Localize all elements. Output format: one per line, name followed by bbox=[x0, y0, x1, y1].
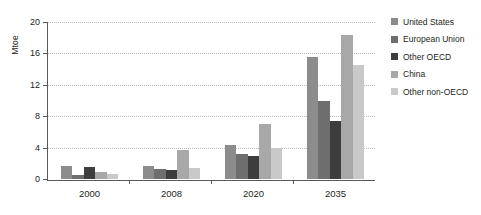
y-axis-line bbox=[47, 22, 48, 180]
plot-area: 048121620 2000200820202035 bbox=[47, 22, 375, 180]
bar[interactable] bbox=[248, 156, 259, 179]
y-axis-tick-mark bbox=[43, 85, 47, 86]
x-axis-tick-mark bbox=[129, 180, 130, 184]
bar[interactable] bbox=[177, 150, 188, 179]
bar[interactable] bbox=[271, 148, 282, 179]
y-axis-title: Mtoe bbox=[10, 23, 20, 67]
bar[interactable] bbox=[95, 172, 106, 179]
y-axis-tick-label: 12 bbox=[30, 80, 40, 90]
bar[interactable] bbox=[330, 121, 341, 179]
y-axis-tick-label: 20 bbox=[30, 17, 40, 27]
bar[interactable] bbox=[189, 168, 200, 179]
x-axis-tick-label: 2020 bbox=[243, 188, 264, 199]
legend-item[interactable]: Other non-OECD bbox=[391, 83, 481, 101]
legend-swatch-icon bbox=[391, 88, 398, 95]
y-axis-tick-mark bbox=[43, 116, 47, 117]
bar[interactable] bbox=[318, 101, 329, 179]
legend-label: European Union bbox=[403, 35, 464, 44]
legend-item[interactable]: China bbox=[391, 66, 481, 84]
y-axis-tick-label: 0 bbox=[35, 174, 40, 184]
legend-swatch-icon bbox=[391, 53, 398, 60]
y-axis-tick-label: 8 bbox=[35, 111, 40, 121]
bar[interactable] bbox=[107, 174, 118, 179]
legend-swatch-icon bbox=[391, 18, 398, 25]
legend-label: Other non-OECD bbox=[403, 88, 468, 97]
bar-group bbox=[143, 22, 200, 179]
legend-item[interactable]: United States bbox=[391, 13, 481, 31]
bar-group bbox=[307, 22, 364, 179]
bar[interactable] bbox=[225, 145, 236, 179]
legend-label: Other OECD bbox=[403, 53, 451, 62]
bar[interactable] bbox=[143, 166, 154, 179]
x-axis-tick-label: 2035 bbox=[325, 188, 346, 199]
legend-label: United States bbox=[403, 18, 454, 27]
x-axis-tick-label: 2000 bbox=[79, 188, 100, 199]
y-axis-tick-mark bbox=[43, 22, 47, 23]
bar[interactable] bbox=[307, 57, 318, 179]
bar-group bbox=[61, 22, 118, 179]
legend-label: China bbox=[403, 70, 425, 79]
y-axis-tick-mark bbox=[43, 148, 47, 149]
x-axis-tick-mark bbox=[211, 180, 212, 184]
legend: United StatesEuropean UnionOther OECDChi… bbox=[391, 13, 481, 101]
bar[interactable] bbox=[353, 65, 364, 179]
x-axis-tick-label: 2008 bbox=[161, 188, 182, 199]
bar[interactable] bbox=[72, 175, 83, 179]
x-axis-tick-mark bbox=[293, 180, 294, 184]
bar[interactable] bbox=[61, 166, 72, 179]
legend-item[interactable]: European Union bbox=[391, 31, 481, 49]
y-axis-tick-label: 4 bbox=[35, 143, 40, 153]
legend-item[interactable]: Other OECD bbox=[391, 48, 481, 66]
bar[interactable] bbox=[154, 169, 165, 179]
bar[interactable] bbox=[236, 154, 247, 179]
bar-chart: Mtoe 048121620 2000200820202035 United S… bbox=[0, 0, 481, 215]
legend-swatch-icon bbox=[391, 36, 398, 43]
legend-swatch-icon bbox=[391, 71, 398, 78]
bar-group bbox=[225, 22, 282, 179]
y-axis-tick-mark bbox=[43, 179, 47, 180]
y-axis-tick-mark bbox=[43, 53, 47, 54]
y-axis-tick-label: 16 bbox=[30, 48, 40, 58]
bar[interactable] bbox=[84, 167, 95, 179]
bar[interactable] bbox=[341, 35, 352, 179]
bar[interactable] bbox=[259, 124, 270, 179]
bar[interactable] bbox=[166, 170, 177, 179]
